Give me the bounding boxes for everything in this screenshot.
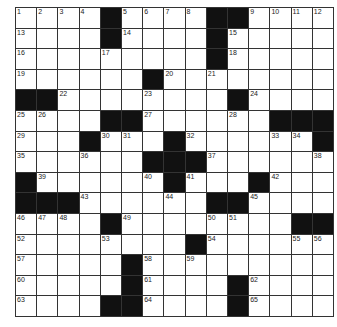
grid-cell[interactable] — [164, 214, 184, 234]
grid-cell[interactable] — [270, 152, 290, 172]
grid-cell[interactable]: 10 — [270, 8, 290, 28]
grid-cell[interactable] — [164, 235, 184, 255]
grid-cell[interactable]: 20 — [164, 70, 184, 90]
grid-cell[interactable] — [207, 111, 227, 131]
grid-cell[interactable] — [164, 49, 184, 69]
grid-cell[interactable] — [228, 235, 248, 255]
grid-cell[interactable] — [186, 111, 206, 131]
grid-cell[interactable]: 14 — [122, 29, 142, 49]
grid-cell[interactable]: 42 — [270, 173, 290, 193]
grid-cell[interactable] — [313, 276, 333, 296]
grid-cell[interactable] — [58, 70, 78, 90]
grid-cell[interactable]: 38 — [313, 152, 333, 172]
grid-cell[interactable]: 34 — [292, 132, 312, 152]
grid-cell[interactable] — [122, 152, 142, 172]
grid-cell[interactable]: 24 — [249, 90, 269, 110]
grid-cell[interactable] — [292, 276, 312, 296]
grid-cell[interactable]: 50 — [207, 214, 227, 234]
grid-cell[interactable] — [292, 70, 312, 90]
grid-cell[interactable]: 25 — [16, 111, 36, 131]
grid-cell[interactable] — [101, 193, 121, 213]
grid-cell[interactable] — [186, 296, 206, 316]
grid-cell[interactable]: 35 — [16, 152, 36, 172]
grid-cell[interactable] — [292, 152, 312, 172]
grid-cell[interactable] — [186, 29, 206, 49]
grid-cell[interactable] — [228, 255, 248, 275]
grid-cell[interactable] — [143, 49, 163, 69]
grid-cell[interactable] — [186, 193, 206, 213]
grid-cell[interactable]: 9 — [249, 8, 269, 28]
grid-cell[interactable] — [207, 255, 227, 275]
grid-cell[interactable] — [270, 193, 290, 213]
grid-cell[interactable]: 61 — [143, 276, 163, 296]
grid-cell[interactable]: 13 — [16, 29, 36, 49]
grid-cell[interactable] — [313, 29, 333, 49]
grid-cell[interactable]: 48 — [58, 214, 78, 234]
grid-cell[interactable] — [122, 70, 142, 90]
grid-cell[interactable] — [207, 173, 227, 193]
grid-cell[interactable] — [228, 152, 248, 172]
grid-cell[interactable]: 4 — [80, 8, 100, 28]
grid-cell[interactable] — [37, 132, 57, 152]
grid-cell[interactable] — [80, 296, 100, 316]
grid-cell[interactable] — [270, 29, 290, 49]
grid-cell[interactable]: 15 — [228, 29, 248, 49]
grid-cell[interactable] — [207, 296, 227, 316]
grid-cell[interactable] — [207, 90, 227, 110]
grid-cell[interactable] — [37, 70, 57, 90]
grid-cell[interactable]: 1 — [16, 8, 36, 28]
grid-cell[interactable] — [37, 296, 57, 316]
grid-cell[interactable]: 57 — [16, 255, 36, 275]
grid-cell[interactable] — [292, 29, 312, 49]
grid-cell[interactable] — [270, 70, 290, 90]
grid-cell[interactable]: 45 — [249, 193, 269, 213]
grid-cell[interactable] — [207, 276, 227, 296]
grid-cell[interactable] — [186, 276, 206, 296]
grid-cell[interactable] — [122, 193, 142, 213]
grid-cell[interactable]: 17 — [101, 49, 121, 69]
grid-cell[interactable] — [80, 29, 100, 49]
grid-cell[interactable] — [270, 49, 290, 69]
grid-cell[interactable] — [292, 49, 312, 69]
grid-cell[interactable] — [270, 296, 290, 316]
grid-cell[interactable] — [101, 276, 121, 296]
grid-cell[interactable]: 47 — [37, 214, 57, 234]
grid-cell[interactable] — [249, 29, 269, 49]
grid-cell[interactable] — [80, 111, 100, 131]
grid-cell[interactable] — [186, 90, 206, 110]
grid-cell[interactable]: 52 — [16, 235, 36, 255]
grid-cell[interactable] — [80, 90, 100, 110]
grid-cell[interactable] — [228, 70, 248, 90]
grid-cell[interactable] — [143, 235, 163, 255]
grid-cell[interactable] — [313, 296, 333, 316]
grid-cell[interactable]: 19 — [16, 70, 36, 90]
grid-cell[interactable] — [101, 152, 121, 172]
grid-cell[interactable]: 33 — [270, 132, 290, 152]
grid-cell[interactable] — [101, 255, 121, 275]
grid-cell[interactable]: 60 — [16, 276, 36, 296]
grid-cell[interactable]: 23 — [143, 90, 163, 110]
grid-cell[interactable] — [164, 90, 184, 110]
grid-cell[interactable]: 43 — [80, 193, 100, 213]
grid-cell[interactable] — [58, 296, 78, 316]
grid-cell[interactable]: 65 — [249, 296, 269, 316]
grid-cell[interactable] — [80, 235, 100, 255]
grid-cell[interactable]: 26 — [37, 111, 57, 131]
grid-cell[interactable] — [249, 70, 269, 90]
grid-cell[interactable] — [207, 132, 227, 152]
grid-cell[interactable] — [292, 173, 312, 193]
grid-cell[interactable] — [80, 173, 100, 193]
grid-cell[interactable] — [270, 276, 290, 296]
grid-cell[interactable] — [228, 173, 248, 193]
grid-cell[interactable] — [270, 90, 290, 110]
grid-cell[interactable] — [122, 173, 142, 193]
grid-cell[interactable] — [101, 90, 121, 110]
grid-cell[interactable] — [313, 90, 333, 110]
grid-cell[interactable] — [164, 255, 184, 275]
grid-cell[interactable] — [228, 132, 248, 152]
grid-cell[interactable] — [80, 214, 100, 234]
grid-cell[interactable]: 30 — [101, 132, 121, 152]
grid-cell[interactable] — [58, 49, 78, 69]
grid-cell[interactable]: 54 — [207, 235, 227, 255]
grid-cell[interactable]: 40 — [143, 173, 163, 193]
